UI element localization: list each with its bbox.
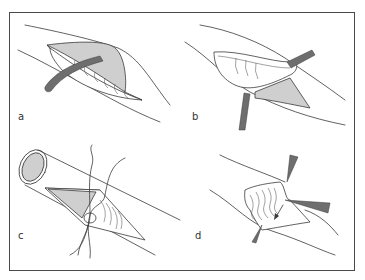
panel-d-forceps-bottom bbox=[252, 225, 262, 243]
panel-d-skin-line-right bbox=[305, 210, 338, 235]
panel-label-c: c bbox=[18, 231, 24, 241]
surgical-figure: a b c d bbox=[0, 0, 365, 280]
panel-d-forceps-top bbox=[287, 155, 298, 182]
panel-b-forceps bbox=[287, 50, 315, 68]
panel-b-strap bbox=[239, 93, 250, 130]
panel-d-skin-line-top bbox=[220, 155, 285, 182]
panel-label-a: a bbox=[18, 112, 24, 122]
illustration-canvas bbox=[0, 0, 365, 280]
panel-d-illustration bbox=[210, 155, 338, 255]
panel-c-tube-opening bbox=[18, 149, 49, 185]
panel-c-illustration bbox=[14, 145, 180, 258]
panel-label-b: b bbox=[192, 112, 198, 122]
panel-b-illustration bbox=[185, 25, 345, 130]
panel-a-illustration bbox=[18, 25, 170, 122]
panel-label-d: d bbox=[195, 231, 201, 241]
